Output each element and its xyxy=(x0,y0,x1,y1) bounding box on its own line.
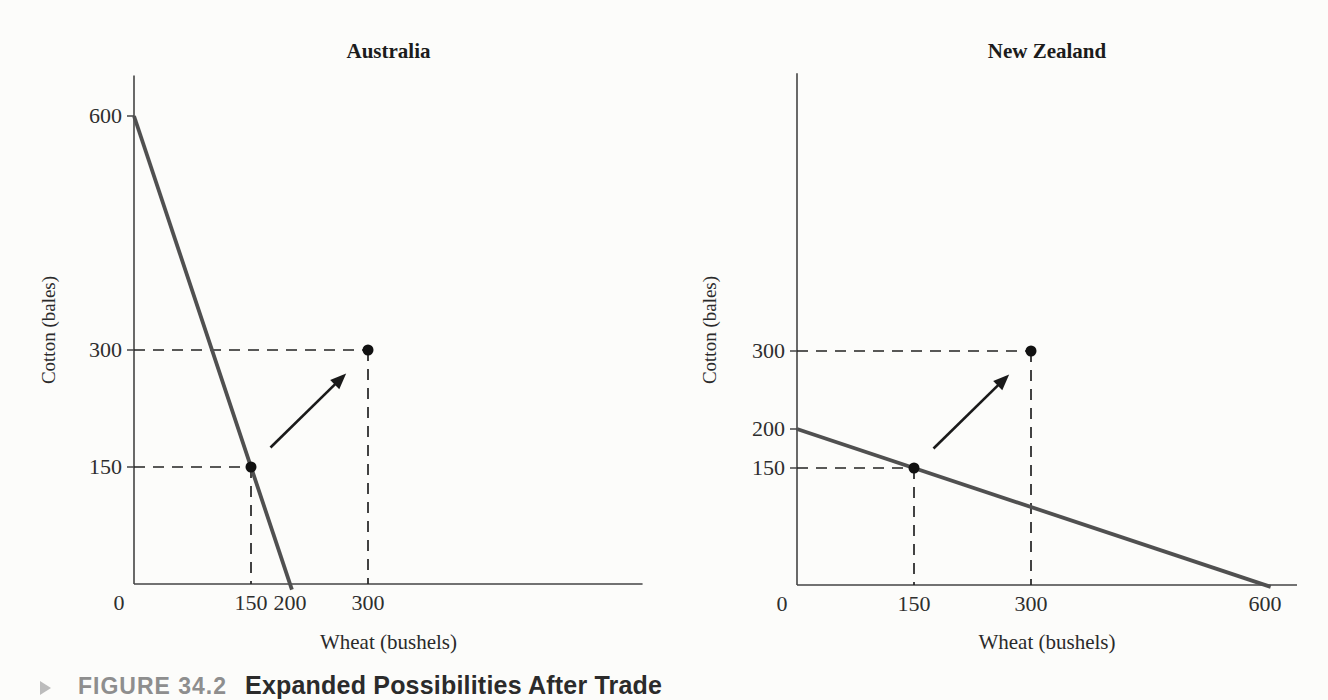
x-tick-label-150: 150 xyxy=(898,591,931,616)
x-tick-label-0: 0 xyxy=(114,590,125,615)
x-tick-label-0: 0 xyxy=(777,591,788,616)
x-tick-label-150: 150 xyxy=(235,590,268,615)
expansion-arrow-shaft xyxy=(271,380,340,447)
data-point-300-300 xyxy=(363,345,374,356)
figure-marker-triangle-icon xyxy=(40,681,51,695)
x-tick-label-300: 300 xyxy=(1015,591,1048,616)
figure-caption: FIGURE 34.2Expanded Possibilities After … xyxy=(78,672,662,700)
production-possibility-frontier xyxy=(797,429,1271,587)
figure-title: Expanded Possibilities After Trade xyxy=(245,671,662,699)
y-tick-label-150: 150 xyxy=(89,454,122,479)
data-point-150-150 xyxy=(246,462,257,473)
y-tick-label-300: 300 xyxy=(89,337,122,362)
data-point-150-150 xyxy=(909,463,920,474)
production-possibility-frontier xyxy=(134,116,292,590)
y-tick-label-300: 300 xyxy=(752,338,785,363)
chart-new-zealand: New Zealand Cotton (bales) Wheat (bushel… xyxy=(664,0,1328,660)
y-tick-label-150: 150 xyxy=(752,455,785,480)
chart-canvas-australia: 6003001500150200300 xyxy=(0,0,664,660)
x-tick-label-300: 300 xyxy=(352,590,385,615)
y-tick-label-200: 200 xyxy=(752,416,785,441)
y-tick-label-600: 600 xyxy=(89,103,122,128)
expansion-arrow-shaft xyxy=(934,381,1003,448)
chart-australia: Australia Cotton (bales) Wheat (bushels)… xyxy=(0,0,664,660)
figure-number: FIGURE 34.2 xyxy=(78,673,227,699)
data-point-300-300 xyxy=(1026,346,1037,357)
x-tick-label-200: 200 xyxy=(274,590,307,615)
x-tick-label-600: 600 xyxy=(1249,591,1282,616)
chart-canvas-new-zealand: 3002001500150300600 xyxy=(664,0,1328,660)
